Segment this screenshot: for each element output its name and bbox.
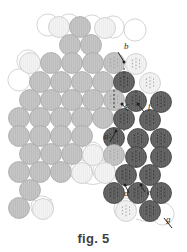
packing-circle-dark [116, 165, 137, 186]
packing-circle-dark [151, 92, 172, 113]
packing-circle-light [49, 17, 70, 38]
diagram-label-a: a [104, 131, 109, 141]
packing-circle-dark [140, 201, 161, 222]
packing-circle-light [72, 163, 93, 184]
packing-circle-dark [128, 183, 149, 204]
packing-circle-dark [140, 110, 161, 131]
packing-circle-mid [62, 90, 83, 111]
packing-circle-mid [93, 108, 114, 129]
packing-circle-mid [70, 17, 91, 38]
diagram-label-d: d [124, 188, 129, 198]
arrow-head-dot [123, 61, 126, 64]
figure-caption: fig. 5 [0, 231, 187, 246]
packing-circle-dark [114, 109, 135, 130]
arrow-head-dot [140, 184, 143, 187]
packing-circle-mid [9, 198, 30, 219]
packing-circle-mid [30, 126, 51, 147]
arrow-head-dot [124, 184, 127, 187]
packing-circle-light [33, 199, 54, 220]
packing-circle-mid [72, 126, 93, 147]
packing-circle-mid [51, 126, 72, 147]
packing-circle-mid [51, 72, 72, 93]
outline-circle [124, 19, 146, 41]
packing-circle-mid [30, 162, 51, 183]
packing-circle-dark [151, 183, 172, 204]
packing-circle-dark [104, 183, 125, 204]
packing-circle-mid [30, 72, 51, 93]
packing-circle-mid [9, 162, 30, 183]
packing-circle-dark [140, 165, 161, 186]
packing-circle-light [126, 54, 147, 75]
packing-diagram-figure: abcdefg [0, 0, 187, 252]
packing-circle-mid [20, 144, 41, 165]
packing-circle-mid [83, 90, 104, 111]
arrow-head-dot [115, 130, 118, 133]
diagram-label-b: b [124, 41, 129, 51]
packing-circle-mid [20, 90, 41, 111]
packing-circle-mid [83, 53, 104, 74]
packing-circle-dark [151, 147, 172, 168]
packing-circle-mid [20, 180, 41, 201]
diagram-label-e: e [147, 187, 151, 197]
packing-circle-mid [72, 72, 93, 93]
arrow-head-dot [121, 103, 124, 106]
packing-circle-light [83, 145, 104, 166]
packing-circle-light [116, 201, 137, 222]
packing-circle-mid [51, 162, 72, 183]
arrow-head-dot [137, 103, 140, 106]
diagram-canvas: abcdefg [0, 0, 187, 252]
diagram-label-g: g [166, 214, 171, 224]
packing-circle-mid [41, 144, 62, 165]
packing-circle-light [95, 163, 116, 184]
packing-circle-mid [62, 53, 83, 74]
packing-circle-light [95, 18, 116, 39]
packing-circle-mid [93, 72, 114, 93]
packing-circle-light [20, 53, 41, 74]
packing-circle-mid [62, 144, 83, 165]
diagram-label-c: c [125, 100, 129, 110]
packing-circle-dark [126, 147, 147, 168]
packing-circle-mid [41, 53, 62, 74]
packing-circle-mid [104, 53, 125, 74]
packing-circle-light [140, 73, 161, 94]
packing-circle-dark [114, 72, 135, 93]
packing-circle-mid [9, 126, 30, 147]
packing-circle-mid [41, 90, 62, 111]
